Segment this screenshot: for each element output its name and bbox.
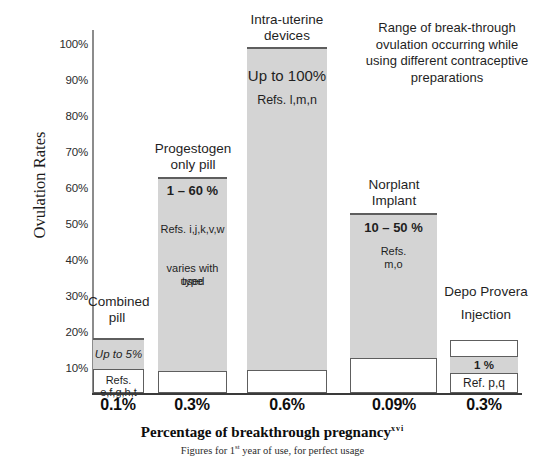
bar4-refs-line-2: m,o	[350, 258, 437, 271]
bar4-refs-line-1: Refs.	[350, 245, 437, 258]
bar2-range-band: 1 – 60 % Refs. i,j,k,v,w varies with typ…	[158, 178, 227, 372]
x-tick-intra-uterine-devices: 0.6%	[252, 396, 322, 414]
x-tick-progestogen-only-pill: 0.3%	[157, 396, 227, 414]
bar-caption-intra-uterine-devices: Intra-uterine devices	[244, 12, 330, 44]
bar1-range-label: Up to 5%	[93, 347, 144, 362]
bar-combined-pill: Up to 5% Refs. e,f,g,h,t	[93, 338, 144, 393]
y-tick-70: 70%	[42, 146, 88, 158]
y-tick-100: 100%	[42, 38, 88, 50]
bar2-refs-line-1: Refs. i,j,k,v,w	[158, 223, 227, 236]
y-tick-60: 60%	[42, 182, 88, 194]
annotation-line-2: ovulation occurring while	[352, 37, 542, 54]
bar5-range-label: 1 %	[450, 358, 518, 373]
x-axis-subtitle-pre: Figures for 1	[181, 445, 235, 456]
bar4-caption-line-1: Norplant	[352, 177, 436, 193]
bar-caption-combined-pill: Combined pill	[88, 294, 146, 326]
x-axis-subtitle-post: year of use, for perfect usage	[240, 445, 364, 456]
bar2-range-label: 1 – 60 %	[158, 183, 227, 198]
bar1-caption-line-1: Combined	[88, 294, 146, 310]
bar3-range-band: Up to 100% Refs. l,m,n	[247, 48, 327, 371]
bar-caption-depo-provera-injection: Depo Provera Injection	[440, 284, 532, 323]
y-tick-20: 20%	[42, 326, 88, 338]
bar3-caption-line-1: Intra-uterine	[244, 12, 330, 28]
bar3-caption-line-2: devices	[244, 28, 330, 44]
bar3-range-label: Up to 100%	[247, 67, 327, 85]
x-axis-title-superscript: xvi	[391, 424, 404, 433]
bar-progestogen-only-pill: 1 – 60 % Refs. i,j,k,v,w varies with typ…	[158, 177, 227, 393]
bar3-refs-line-1: Refs. l,m,n	[247, 93, 327, 108]
bar-norplant-implant: 10 – 50 % Refs. m,o	[350, 213, 437, 393]
annotation-line-3: using different contraceptive	[352, 53, 542, 70]
x-tick-combined-pill: 0.1%	[83, 396, 153, 414]
annotation-line-1: Range of break-through	[352, 20, 542, 37]
bar1-range-band: Up to 5%	[93, 339, 144, 370]
bar-caption-norplant-implant: Norplant Implant	[352, 177, 436, 209]
y-tick-40: 40%	[42, 254, 88, 266]
x-tick-norplant-implant: 0.09%	[358, 396, 430, 414]
bar2-caption-line-2: only pill	[150, 157, 236, 173]
y-tick-50: 50%	[42, 218, 88, 230]
y-tick-90: 90%	[42, 74, 88, 86]
bar4-range-label: 10 – 50 %	[350, 220, 437, 235]
bar-caption-progestogen-only-pill: Progestogen only pill	[150, 141, 236, 173]
bar-depo-provera-injection: 1 % Ref. p,q	[450, 340, 518, 393]
annotation-line-4: preparations	[352, 70, 542, 87]
bar5-caption-line-1: Depo Provera	[440, 284, 532, 300]
chart-annotation: Range of break-through ovulation occurri…	[352, 20, 542, 86]
bar4-caption-line-2: Implant	[352, 193, 436, 209]
x-axis-line	[92, 393, 522, 395]
bar4-range-band: 10 – 50 % Refs. m,o	[350, 214, 437, 359]
bar5-caption-line-2: Injection	[440, 307, 532, 323]
x-axis-subtitle: Figures for 1st year of use, for perfect…	[0, 443, 545, 456]
y-tick-30: 30%	[42, 290, 88, 302]
y-tick-10: 10%	[42, 362, 88, 374]
x-tick-depo-provera-injection: 0.3%	[449, 396, 519, 414]
bar5-refs-line-1: Ref. p,q	[451, 377, 517, 390]
bar2-caption-line-1: Progestogen	[150, 141, 236, 157]
x-axis-title-text: Percentage of breakthrough pregnancy	[141, 424, 391, 440]
bar1-caption-line-2: pill	[88, 310, 146, 326]
bar2-extra-line-2: used	[158, 275, 227, 288]
ovulation-rates-bar-chart: Ovulation Rates 100% 90% 80% 70% 60% 50%…	[0, 0, 545, 462]
y-tick-80: 80%	[42, 110, 88, 122]
bar5-range-band: 1 %	[450, 356, 518, 374]
bar-intra-uterine-devices: Up to 100% Refs. l,m,n	[247, 47, 327, 393]
x-axis-title: Percentage of breakthrough pregnancyxvi	[0, 424, 545, 441]
